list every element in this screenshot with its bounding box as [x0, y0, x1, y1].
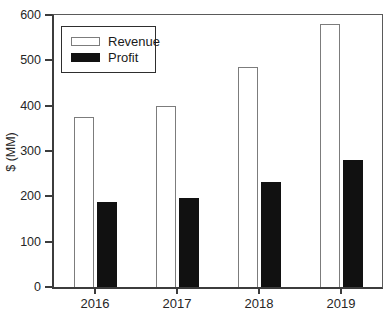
- x-tick-mark: [258, 289, 260, 294]
- bar-revenue-2019: [320, 24, 340, 287]
- y-tick-label: 600: [7, 8, 41, 22]
- profit-swatch-icon: [71, 53, 100, 62]
- legend-label-profit: Profit: [108, 50, 138, 65]
- legend-label-revenue: Revenue: [108, 34, 160, 49]
- legend-item-profit: Profit: [71, 49, 155, 65]
- bar-profit-2016: [97, 202, 117, 287]
- y-tick-mark: [45, 105, 52, 107]
- x-tick-mark: [176, 289, 178, 294]
- x-tick-label-2017: 2017: [147, 296, 207, 311]
- y-tick-mark: [45, 286, 52, 288]
- x-tick-label-2016: 2016: [65, 296, 125, 311]
- bar-revenue-2018: [238, 67, 258, 287]
- bar-chart-figure: $ (MM) Revenue Profit 010020030040050060…: [0, 0, 390, 313]
- y-tick-label: 200: [7, 189, 41, 203]
- x-tick-mark: [94, 289, 96, 294]
- y-tick-label: 0: [7, 280, 41, 294]
- y-tick-mark: [45, 14, 52, 16]
- revenue-swatch-icon: [71, 37, 100, 46]
- y-tick-label: 500: [7, 53, 41, 67]
- x-tick-mark: [340, 289, 342, 294]
- y-tick-label: 400: [7, 99, 41, 113]
- bar-profit-2019: [343, 160, 363, 287]
- y-tick-label: 100: [7, 235, 41, 249]
- y-tick-mark: [45, 241, 52, 243]
- legend: Revenue Profit: [61, 26, 156, 73]
- y-tick-mark: [45, 195, 52, 197]
- legend-item-revenue: Revenue: [71, 33, 155, 49]
- bar-profit-2018: [261, 182, 281, 287]
- y-tick-label: 300: [7, 144, 41, 158]
- bar-profit-2017: [179, 198, 199, 287]
- x-tick-label-2018: 2018: [229, 296, 289, 311]
- y-tick-mark: [45, 59, 52, 61]
- plot-area: Revenue Profit: [52, 14, 383, 289]
- bar-revenue-2017: [156, 106, 176, 287]
- x-tick-label-2019: 2019: [311, 296, 371, 311]
- y-tick-mark: [45, 150, 52, 152]
- bar-revenue-2016: [74, 117, 94, 287]
